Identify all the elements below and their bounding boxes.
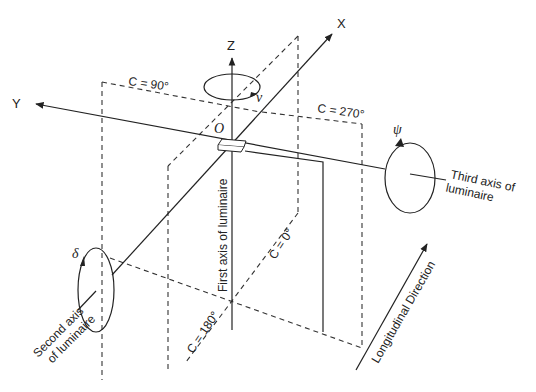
luminaire-box xyxy=(218,139,246,152)
y-axis-label: Y xyxy=(12,96,21,111)
c180-label: C = 180° xyxy=(184,309,222,356)
psi-label: ψ xyxy=(393,122,402,137)
psi-arrow-icon xyxy=(395,138,404,147)
second-axis-label: Second axis of luminaire xyxy=(30,302,98,370)
nu-label: ν xyxy=(256,90,263,105)
z-axis-label: Z xyxy=(227,38,235,53)
c270-label: C = 270° xyxy=(317,101,366,121)
c0-c180-plane xyxy=(168,36,298,362)
third-axis-label: Third axis of luminaire xyxy=(445,167,520,209)
delta-label: δ xyxy=(72,246,79,261)
x-axis-label: X xyxy=(337,16,346,31)
origin-label: O xyxy=(214,121,224,136)
luminaire-coordinate-diagram: Y X Z O ν ψ δ C = 90° C = 270° C = 0° C … xyxy=(0,0,536,392)
longitudinal-direction-label: Longitudinal Direction xyxy=(368,259,438,366)
c90-label: C = 90° xyxy=(128,74,170,94)
longitudinal-direction-arrow xyxy=(356,244,427,370)
c0-label: C = 0° xyxy=(266,226,297,262)
third-axis-line xyxy=(410,174,446,180)
psi-rotation-ellipse xyxy=(385,143,435,213)
first-axis-label: First axis of luminaire xyxy=(216,178,230,292)
